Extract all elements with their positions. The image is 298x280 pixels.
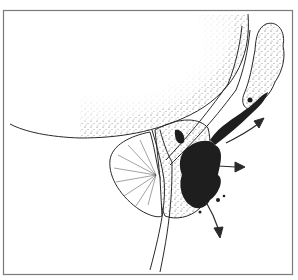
arrow-right — [218, 162, 245, 172]
anatomical-illustration — [0, 0, 298, 280]
arrow-down — [206, 202, 223, 238]
